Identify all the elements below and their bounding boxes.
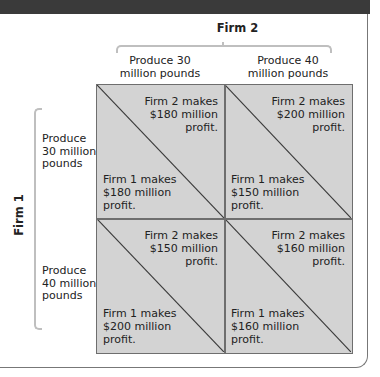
payoff-text: $150 million bbox=[144, 242, 218, 255]
firm2-payoff: Firm 2 makes $200 million profit. bbox=[271, 95, 345, 134]
row-label-produce-40: Produce 40 million pounds bbox=[42, 265, 98, 303]
firm1-payoff: Firm 1 makes $180 million profit. bbox=[103, 173, 177, 212]
firm2-brace bbox=[116, 45, 332, 53]
row-label-line: pounds bbox=[42, 290, 98, 303]
payoff-text: $180 million bbox=[103, 186, 177, 199]
payoff-text: Firm 2 makes bbox=[144, 95, 218, 108]
payoff-text: $160 million bbox=[271, 242, 345, 255]
row-label-line: Produce bbox=[42, 265, 98, 278]
column-label-line: million pounds bbox=[224, 67, 352, 80]
firm2-payoff: Firm 2 makes $150 million profit. bbox=[144, 229, 218, 268]
payoff-text: Firm 1 makes bbox=[103, 173, 177, 186]
firm1-brace bbox=[34, 108, 42, 330]
payoff-cell-30-40: Firm 2 makes $200 million profit. Firm 1… bbox=[225, 85, 351, 218]
top-bar bbox=[0, 0, 370, 14]
payoff-text: Firm 2 makes bbox=[271, 229, 345, 242]
firm1-payoff: Firm 1 makes $150 million profit. bbox=[231, 173, 305, 212]
payoff-text: Firm 1 makes bbox=[231, 173, 305, 186]
payoff-text: Firm 1 makes bbox=[103, 307, 177, 320]
payoff-text: $180 million bbox=[144, 108, 218, 121]
column-label-line: Produce 30 bbox=[96, 54, 224, 67]
firm1-payoff: Firm 1 makes $200 million profit. bbox=[103, 307, 177, 346]
payoff-text: profit. bbox=[231, 333, 305, 346]
firm2-payoff: Firm 2 makes $180 million profit. bbox=[144, 95, 218, 134]
payoff-text: $200 million bbox=[103, 320, 177, 333]
row-label-line: Produce bbox=[42, 133, 98, 146]
payoff-text: Firm 2 makes bbox=[144, 229, 218, 242]
payoff-text: $150 million bbox=[231, 186, 305, 199]
payoff-text: Firm 1 makes bbox=[231, 307, 305, 320]
payoff-text: profit. bbox=[103, 333, 177, 346]
payoff-cell-40-40: Firm 2 makes $160 million profit. Firm 1… bbox=[225, 219, 351, 352]
payoff-text: profit. bbox=[231, 199, 305, 212]
payoff-text: profit. bbox=[144, 121, 218, 134]
payoff-matrix: Firm 2 makes $180 million profit. Firm 1… bbox=[96, 84, 353, 354]
payoff-text: $160 million bbox=[231, 320, 305, 333]
payoff-cell-40-30: Firm 2 makes $150 million profit. Firm 1… bbox=[97, 219, 224, 352]
payoff-text: profit. bbox=[144, 255, 218, 268]
column-label-line: million pounds bbox=[96, 67, 224, 80]
payoff-cell-30-30: Firm 2 makes $180 million profit. Firm 1… bbox=[97, 85, 224, 218]
firm1-heading: Firm 1 bbox=[12, 190, 26, 240]
payoff-text: profit. bbox=[103, 199, 177, 212]
payoff-text: Firm 2 makes bbox=[271, 95, 345, 108]
column-label-produce-40: Produce 40 million pounds bbox=[224, 54, 352, 80]
firm2-heading: Firm 2 bbox=[200, 21, 275, 35]
column-label-produce-30: Produce 30 million pounds bbox=[96, 54, 224, 80]
column-label-line: Produce 40 bbox=[224, 54, 352, 67]
payoff-text: $200 million bbox=[271, 108, 345, 121]
horizontal-grid-divider bbox=[97, 218, 352, 220]
payoff-text: profit. bbox=[271, 255, 345, 268]
firm2-payoff: Firm 2 makes $160 million profit. bbox=[271, 229, 345, 268]
row-label-line: pounds bbox=[42, 158, 98, 171]
row-label-produce-30: Produce 30 million pounds bbox=[42, 133, 98, 171]
firm1-payoff: Firm 1 makes $160 million profit. bbox=[231, 307, 305, 346]
payoff-text: profit. bbox=[271, 121, 345, 134]
